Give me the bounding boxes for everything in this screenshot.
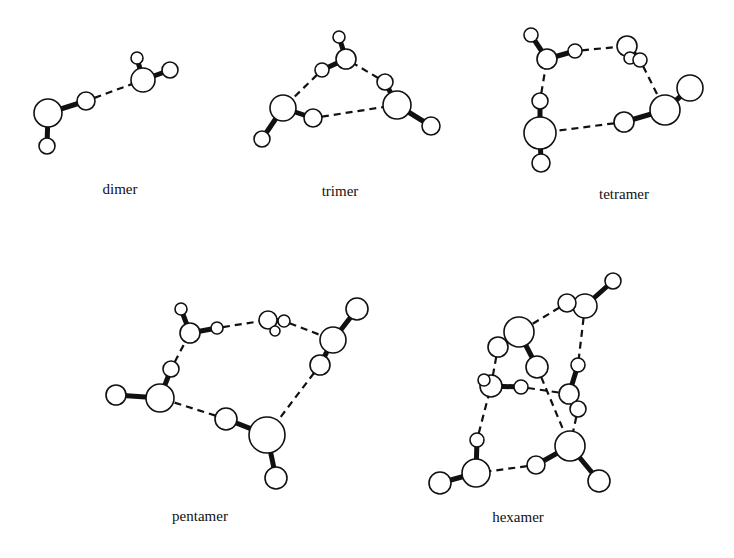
hydrogen-bond [541, 69, 545, 93]
hydrogen-bond [490, 466, 527, 471]
hydrogen-bond [573, 417, 576, 432]
hydrogen-atom [614, 112, 634, 132]
hydrogen-atom [527, 456, 545, 474]
oxygen-atom [504, 317, 534, 347]
hydrogen-atom [605, 273, 621, 289]
hydrogen-bond [479, 397, 488, 434]
hydrogen-atom [215, 408, 237, 430]
hydrogen-atom [131, 52, 143, 64]
water-clusters-diagram: dimertrimertetramerpentamerhexamer [0, 0, 734, 558]
oxygen-atom [34, 99, 62, 127]
hydrogen-bond [292, 75, 317, 99]
cluster-label: hexamer [492, 509, 544, 525]
cluster-dimer: dimer [34, 52, 178, 197]
hydrogen-bond [223, 321, 259, 327]
oxygen-atom [146, 384, 174, 412]
hydrogen-atom [270, 326, 280, 336]
oxygen-atom [249, 417, 285, 453]
oxygen-atom [650, 95, 680, 125]
oxygen-atom [320, 327, 346, 353]
hydrogen-atom [162, 62, 178, 78]
hydrogen-bond [175, 342, 186, 362]
oxygen-atom [555, 431, 585, 461]
hydrogen-bond [528, 388, 559, 393]
hydrogen-bond [493, 357, 496, 375]
hydrogen-atom [532, 154, 550, 172]
hydrogen-bond [643, 66, 658, 96]
hydrogen-bond [322, 107, 383, 116]
hydrogen-atom [175, 303, 187, 315]
hydrogen-atom [106, 385, 126, 405]
cluster-trimer: trimer [254, 31, 440, 199]
oxygen-atom [336, 49, 356, 69]
hydrogen-atom [265, 467, 287, 489]
hydrogen-atom [333, 31, 345, 43]
oxygen-atom [131, 68, 155, 92]
hydrogen-bond [541, 377, 564, 432]
oxygen-atom [270, 95, 296, 121]
hydrogen-atom [77, 92, 95, 110]
hydrogen-atom [571, 358, 585, 372]
cluster-hexamer: hexamer [429, 273, 621, 525]
hydrogen-atom [532, 93, 548, 109]
hydrogen-bond [94, 84, 131, 98]
cluster-label: tetramer [599, 186, 649, 202]
oxygen-atom [524, 117, 556, 149]
cluster-label: trimer [322, 183, 359, 199]
cluster-tetramer: tetramer [524, 28, 703, 202]
oxygen-atom [462, 459, 490, 487]
hydrogen-bond [278, 373, 314, 421]
hydrogen-atom [304, 109, 322, 127]
hydrogen-atom [524, 28, 538, 42]
hydrogen-atom [163, 361, 179, 377]
oxygen-atom [573, 294, 597, 318]
hydrogen-atom [377, 74, 393, 90]
oxygen-atom [383, 91, 411, 119]
oxygen-atom [180, 323, 200, 343]
hydrogen-bond [290, 323, 321, 335]
hydrogen-bond [556, 123, 614, 131]
hydrogen-atom [588, 470, 610, 492]
hydrogen-bond [532, 308, 559, 325]
hydrogen-atom [488, 337, 508, 357]
hydrogen-atom [570, 401, 586, 417]
hydrogen-atom [633, 53, 647, 67]
hydrogen-atom [422, 117, 440, 135]
hydrogen-atom [568, 44, 582, 58]
hydrogen-atom [429, 472, 451, 494]
cluster-pentamer: pentamer [106, 298, 368, 524]
hydrogen-bond [355, 64, 378, 78]
hydrogen-atom [478, 374, 490, 386]
cluster-label: pentamer [172, 508, 228, 524]
hydrogen-atom [558, 294, 576, 312]
hydrogen-atom [677, 75, 703, 101]
cluster-label: dimer [103, 181, 138, 197]
hydrogen-atom [39, 138, 55, 154]
hydrogen-atom [514, 380, 528, 394]
hydrogen-bond [173, 402, 215, 415]
hydrogen-atom [526, 356, 548, 378]
hydrogen-atom [470, 433, 484, 447]
hydrogen-atom [315, 63, 329, 77]
oxygen-atom [537, 49, 557, 69]
hydrogen-atom [278, 315, 290, 327]
hydrogen-atom [346, 298, 368, 320]
hydrogen-atom [310, 355, 330, 375]
hydrogen-atom [211, 322, 223, 334]
hydrogen-bond [582, 47, 617, 50]
hydrogen-atom [254, 131, 270, 147]
hydrogen-bond [579, 318, 584, 358]
